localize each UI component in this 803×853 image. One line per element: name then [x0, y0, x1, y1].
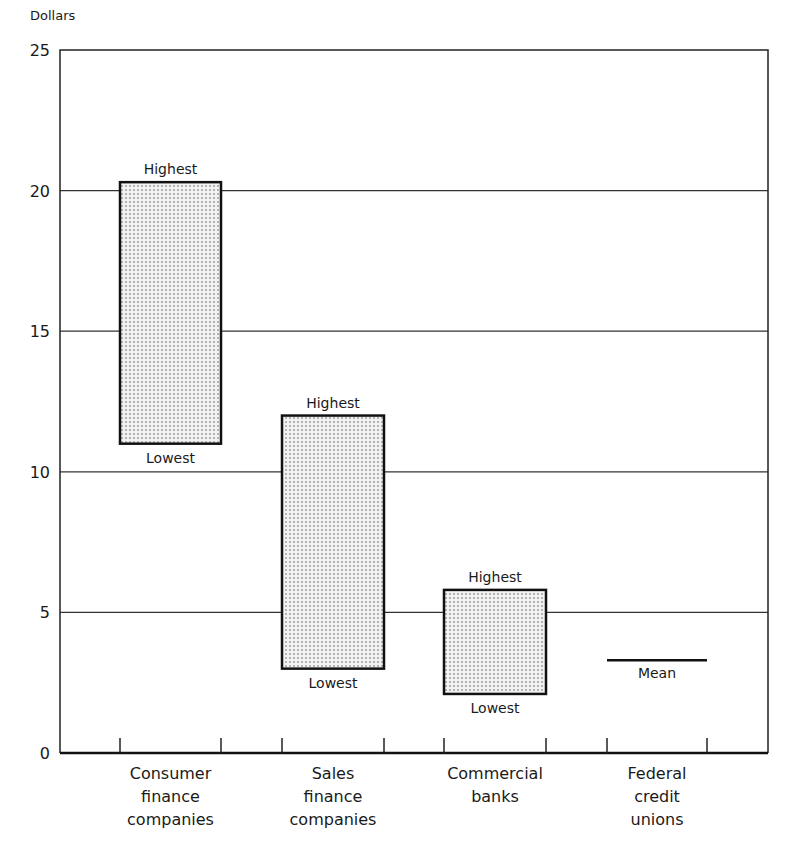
category-label: Commercial [447, 764, 543, 783]
lowest-label: Lowest [309, 675, 358, 691]
highest-label: Highest [468, 569, 522, 585]
range-chart: 0510152025 HighestLowestHighestLowestHig… [0, 0, 803, 853]
y-tick-label: 0 [40, 744, 50, 763]
category-label: unions [631, 810, 684, 829]
range-bar [120, 182, 221, 444]
category-label: companies [127, 810, 214, 829]
range-bars: HighestLowestHighestLowestHighestLowestM… [120, 161, 707, 716]
category-label: Sales [312, 764, 355, 783]
highest-label: Highest [306, 395, 360, 411]
lowest-label: Lowest [471, 700, 520, 716]
category-label: banks [471, 787, 519, 806]
lowest-label: Lowest [146, 450, 195, 466]
mean-label: Mean [638, 665, 676, 681]
y-axis-label: Dollars [30, 8, 75, 23]
y-tick-label: 5 [40, 603, 50, 622]
category-label: Federal [628, 764, 687, 783]
category-label: companies [290, 810, 377, 829]
y-tick-label: 10 [30, 463, 50, 482]
y-tick-label: 15 [30, 322, 50, 341]
category-label: finance [141, 787, 200, 806]
highest-label: Highest [144, 161, 198, 177]
category-label: Consumer [130, 764, 212, 783]
category-label: finance [304, 787, 363, 806]
y-tick-label: 20 [30, 182, 50, 201]
y-tick-label: 25 [30, 41, 50, 60]
category-label: credit [634, 787, 680, 806]
range-bar [282, 416, 384, 669]
y-axis-ticks: 0510152025 [30, 41, 50, 763]
x-axis-labels: ConsumerfinancecompaniesSalesfinancecomp… [127, 764, 686, 829]
range-bar [444, 590, 546, 694]
